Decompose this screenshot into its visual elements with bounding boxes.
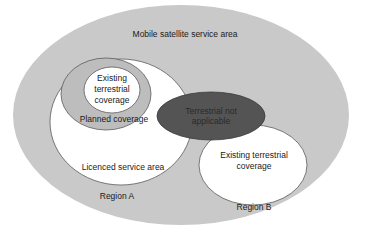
region-a-label: Region A [100, 191, 135, 201]
existing-terrestrial-a-label-line2: terrestrial [94, 84, 130, 94]
region-b-label: Region B [237, 202, 272, 212]
existing-terrestrial-a-label-line3: coverage [95, 95, 130, 105]
existing-terrestrial-b-label-line2: coverage [237, 161, 272, 171]
planned-coverage-label: Planned coverage [80, 114, 149, 124]
terrestrial-not-applicable-label-line2: applicable [192, 116, 231, 126]
mobile-satellite-service-area-label: Mobile satellite service area [133, 29, 238, 39]
existing-terrestrial-b-label-line1: Existing terrestrial [220, 150, 288, 160]
existing-terrestrial-a-label-line1: Existing [97, 73, 127, 83]
terrestrial-not-applicable-label-line1: Terrestrial not [185, 106, 237, 116]
licenced-service-area-label: Licenced service area [82, 162, 165, 172]
coverage-venn-diagram: Mobile satellite service area Existing t… [0, 0, 367, 233]
